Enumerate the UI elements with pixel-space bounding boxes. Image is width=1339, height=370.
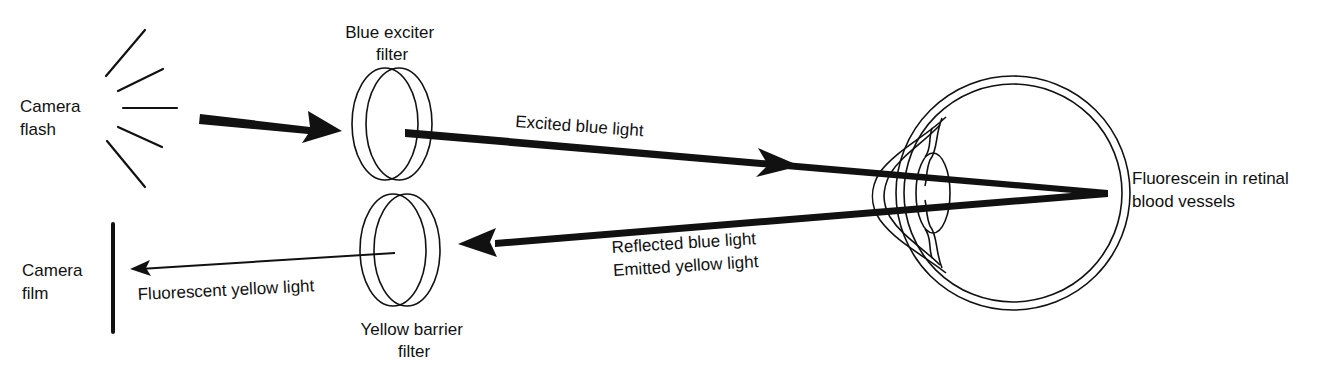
- blue-exciter-filter-icon: [352, 68, 432, 180]
- fluorescent-yellow-light-arrow: [130, 253, 395, 276]
- label-reflected-emitted-light: Reflected blue light Emitted yellow ligh…: [611, 229, 763, 280]
- excited-blue-light-beam: [405, 129, 1108, 196]
- label-camera-flash: Camera flash: [20, 97, 85, 139]
- flash-arrow-icon: [199, 111, 342, 143]
- label-camera-film: Camera film: [22, 261, 87, 303]
- label-fluorescent-yellow-light: Fluorescent yellow light: [137, 276, 315, 304]
- flash-rays-icon: [106, 30, 177, 187]
- diagram-canvas: Camera flash Blue exciter filter Excited…: [0, 0, 1339, 370]
- yellow-barrier-filter-icon: [360, 194, 440, 306]
- label-blue-exciter-filter: Blue exciter filter: [345, 23, 439, 64]
- label-fluorescein-retinal-vessels: Fluorescein in retinal blood vessels: [1132, 169, 1294, 211]
- reflected-emitted-light-beam: [458, 190, 1108, 257]
- label-excited-blue-light: Excited blue light: [515, 112, 645, 140]
- label-yellow-barrier-filter: Yellow barrier filter: [360, 320, 467, 361]
